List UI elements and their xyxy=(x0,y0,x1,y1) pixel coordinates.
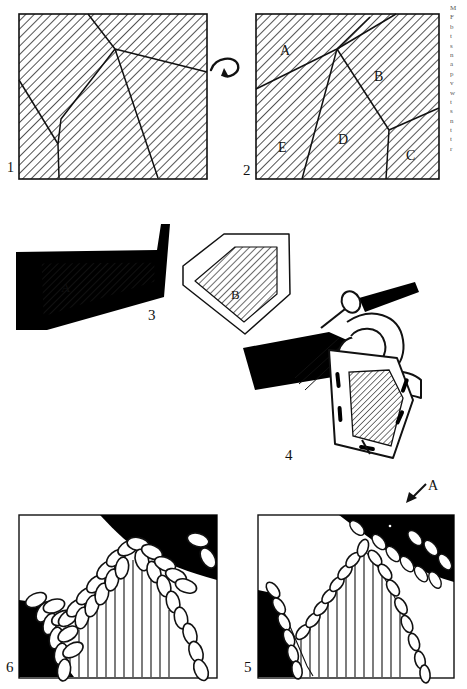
panel-2-number: 2 xyxy=(243,163,251,178)
margin-text-column: M F b t s n a p v w t s n t t r xyxy=(450,4,467,176)
panel-5-number: 5 xyxy=(244,660,252,675)
callout-a: A xyxy=(404,482,428,504)
panel-1-field xyxy=(19,14,207,179)
margin-line: r xyxy=(450,145,467,154)
panel-4: 4 xyxy=(243,280,443,460)
margin-line: v xyxy=(450,79,467,88)
panel-3-number: 3 xyxy=(148,308,156,323)
panel-6-number: 6 xyxy=(6,660,14,675)
margin-line: b xyxy=(450,23,467,32)
margin-line: t xyxy=(450,135,467,144)
figure-page: 1 A B C D E 2 M F xyxy=(0,0,467,689)
callout-a-label: A xyxy=(428,479,438,493)
margin-line: n xyxy=(450,51,467,60)
margin-line: t xyxy=(450,32,467,41)
panel-2-label-C: C xyxy=(406,149,415,163)
panel-3-piece-a: A 3 xyxy=(14,222,174,332)
callout-a-arrow-icon xyxy=(404,482,428,504)
panel-1-drawing xyxy=(18,13,208,180)
margin-line: n xyxy=(450,117,467,126)
panel-1-number: 1 xyxy=(7,161,14,175)
panel-5-drawing xyxy=(257,514,455,679)
margin-line: p xyxy=(450,70,467,79)
panel-5: 5 xyxy=(257,514,455,679)
panel-2-label-E: E xyxy=(278,141,287,155)
panel-4-number: 4 xyxy=(285,448,293,463)
panel-6-drawing xyxy=(18,514,218,679)
margin-line: t xyxy=(450,126,467,135)
margin-line: a xyxy=(450,60,467,69)
margin-line: t xyxy=(450,98,467,107)
panel-4-drawing xyxy=(243,280,443,460)
panel-2-label-B: B xyxy=(374,70,383,84)
margin-line: F xyxy=(450,13,467,22)
panel-2-label-A: A xyxy=(280,44,290,58)
panel-6: 6 xyxy=(18,514,218,679)
awl-handle xyxy=(359,282,419,312)
rotate-arrow-icon xyxy=(207,52,243,86)
panel-1: 1 xyxy=(18,13,208,180)
margin-line: s xyxy=(450,42,467,51)
panel-2: A B C D E 2 xyxy=(255,13,440,180)
margin-line: w xyxy=(450,89,467,98)
rotate-arrow xyxy=(207,52,243,86)
panel-3-label-B: B xyxy=(231,288,240,301)
margin-line: M xyxy=(450,4,467,13)
margin-line: s xyxy=(450,107,467,116)
panel-3-label-A: A xyxy=(61,281,70,294)
panel-2-label-D: D xyxy=(338,133,348,147)
